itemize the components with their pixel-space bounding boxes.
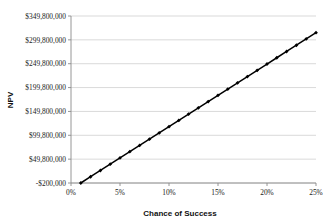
x-tick-label: 15% bbox=[211, 188, 225, 197]
y-tick-label: $49,800,000 bbox=[29, 155, 66, 164]
gridlines-group bbox=[71, 16, 316, 183]
y-tick-label: $149,800,000 bbox=[25, 107, 66, 116]
x-tick-label: 5% bbox=[115, 188, 125, 197]
y-tick-label: $249,800,000 bbox=[25, 59, 66, 68]
npv-vs-chance-of-success-chart: -$200,000$49,800,000$99,800,000$149,800,… bbox=[0, 0, 329, 224]
y-tick-label: $99,800,000 bbox=[29, 131, 66, 140]
x-tick-label: 20% bbox=[260, 188, 274, 197]
x-axis-tick-labels-group: 0%5%10%15%20%25% bbox=[66, 188, 323, 197]
x-axis-title: Chance of Success bbox=[143, 209, 217, 218]
x-tick-label: 25% bbox=[309, 188, 323, 197]
y-axis-tick-labels-group: -$200,000$49,800,000$99,800,000$149,800,… bbox=[25, 12, 66, 188]
chart-container: -$200,000$49,800,000$99,800,000$149,800,… bbox=[0, 0, 329, 224]
x-tick-label: 0% bbox=[66, 188, 76, 197]
y-axis-title: NPV bbox=[6, 91, 15, 108]
x-tick-label: 10% bbox=[162, 188, 176, 197]
y-tick-label: $299,800,000 bbox=[25, 36, 66, 45]
y-tick-label: -$200,000 bbox=[36, 179, 66, 188]
y-tick-label: $199,800,000 bbox=[25, 83, 66, 92]
y-tick-label: $349,800,000 bbox=[25, 12, 66, 21]
